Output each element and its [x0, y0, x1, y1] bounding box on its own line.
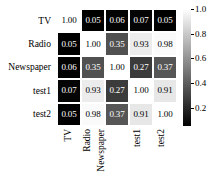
heatmap-cell: 0.91: [129, 103, 153, 126]
column-label-slot: test2: [153, 127, 177, 193]
heatmap-cell: 0.06: [105, 9, 129, 32]
heatmap-cell-value: 0.91: [158, 86, 173, 95]
heatmap-cell-value: 0.98: [86, 110, 101, 119]
heatmap-cell: 0.98: [153, 32, 177, 55]
colorbar-gradient-strip: [183, 9, 191, 126]
heatmap-cell-value: 0.93: [134, 40, 149, 49]
heatmap-cell: 0.27: [129, 56, 153, 79]
row-label-tv: TV: [0, 9, 54, 32]
colorbar-tick-mark: [191, 83, 194, 84]
heatmap-cell: 1.00: [105, 56, 129, 79]
heatmap-cell: 0.35: [105, 32, 129, 55]
colorbar-tick-label: 1.0: [195, 4, 206, 14]
colorbar-tick-mark: [191, 9, 194, 10]
heatmap-grid: 1.000.050.060.070.050.051.000.350.930.98…: [57, 9, 177, 126]
heatmap-cell: 0.05: [153, 9, 177, 32]
heatmap-cell-value: 0.05: [86, 16, 101, 25]
column-label-tv: TV: [63, 129, 73, 142]
colorbar-tick-mark: [191, 34, 194, 35]
heatmap-cell-value: 0.35: [86, 63, 101, 72]
row-axis-labels: TVRadioNewspapertest1test2: [0, 9, 54, 126]
heatmap-cell-value: 0.05: [62, 110, 77, 119]
colorbar-tick-label: 0.6: [195, 53, 206, 63]
heatmap-cell: 0.05: [81, 9, 105, 32]
heatmap-cell-value: 1.00: [110, 63, 125, 72]
heatmap-cell: 0.37: [105, 103, 129, 126]
heatmap-cell-value: 0.27: [134, 63, 149, 72]
heatmap-cell: 0.05: [57, 32, 81, 55]
colorbar-tick-label: 0.4: [195, 78, 206, 88]
heatmap-cell-value: 0.06: [62, 63, 77, 72]
heatmap-cell: 1.00: [81, 32, 105, 55]
heatmap-cell: 1.00: [129, 79, 153, 102]
column-label-slot: TV: [57, 127, 81, 193]
heatmap-cell-value: 0.05: [158, 16, 173, 25]
heatmap-cell: 0.27: [105, 79, 129, 102]
row-label-newspaper: Newspaper: [0, 56, 54, 79]
row-label-radio: Radio: [0, 32, 54, 55]
colorbar-tick-label: 0.8: [195, 29, 206, 39]
heatmap-cell: 0.93: [81, 79, 105, 102]
heatmap-cell: 0.06: [57, 56, 81, 79]
heatmap-cell: 0.93: [129, 32, 153, 55]
colorbar-tick-mark: [191, 108, 194, 109]
heatmap-cell: 0.35: [81, 56, 105, 79]
heatmap-cell: 0.05: [57, 103, 81, 126]
heatmap-cell-value: 0.05: [62, 40, 77, 49]
heatmap-cell-value: 0.37: [158, 63, 173, 72]
heatmap-cell-value: 1.00: [158, 110, 173, 119]
heatmap-cell-value: 0.37: [110, 110, 125, 119]
heatmap-cell: 0.37: [153, 56, 177, 79]
heatmap-cell: 0.07: [57, 79, 81, 102]
column-axis-labels: TVRadioNewspapertest1test2: [57, 127, 177, 193]
heatmap-cell: 0.91: [153, 79, 177, 102]
heatmap-cell-value: 0.93: [86, 86, 101, 95]
column-label-slot: test1: [129, 127, 153, 193]
heatmap-cell-value: 0.98: [158, 40, 173, 49]
heatmap-cell-value: 1.00: [134, 86, 149, 95]
row-label-test1: test1: [0, 79, 54, 102]
column-label-radio: Radio: [82, 129, 92, 152]
row-label-test2: test2: [0, 103, 54, 126]
heatmap-cell-value: 1.00: [62, 16, 77, 25]
colorbar: 1.00.80.60.40.2: [183, 9, 220, 126]
column-label-test2: test2: [156, 129, 166, 147]
colorbar-tick-mark: [191, 58, 194, 59]
heatmap-cell: 0.98: [81, 103, 105, 126]
heatmap-cell-value: 0.91: [134, 110, 149, 119]
heatmap-cell-value: 0.06: [110, 16, 125, 25]
heatmap-cell: 1.00: [57, 9, 81, 32]
colorbar-tick-label: 0.2: [195, 103, 206, 113]
column-label-slot: Newspaper: [105, 127, 129, 193]
heatmap-cell: 1.00: [153, 103, 177, 126]
column-label-newspaper: Newspaper: [96, 129, 106, 172]
heatmap-cell-value: 0.27: [110, 86, 125, 95]
heatmap-cell: 0.07: [129, 9, 153, 32]
heatmap-cell-value: 1.00: [86, 40, 101, 49]
correlation-heatmap-figure: TVRadioNewspapertest1test2 1.000.050.060…: [0, 0, 220, 196]
heatmap-cell-value: 0.07: [62, 86, 77, 95]
column-label-test1: test1: [132, 129, 142, 147]
heatmap-cell-value: 0.07: [134, 16, 149, 25]
heatmap-cell-value: 0.35: [110, 40, 125, 49]
